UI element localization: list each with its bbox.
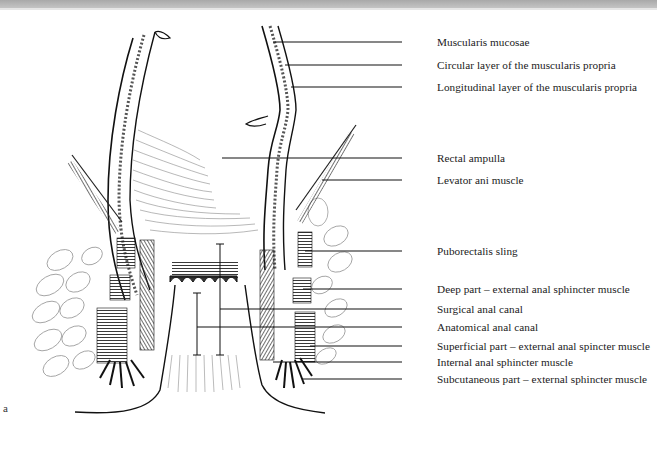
label-superficial-external-sphincter: Superficial part – external anal spincte… <box>437 340 650 352</box>
label-rectal-ampulla: Rectal ampulla <box>437 152 505 164</box>
levator-ani <box>70 125 356 232</box>
anal-verge-folds <box>168 355 240 392</box>
ischioanal-fat-left <box>29 244 106 381</box>
label-puborectalis-sling: Puborectalis sling <box>437 245 518 257</box>
panel-letter: a <box>3 402 8 414</box>
rectal-wall-right <box>246 26 296 270</box>
label-circular-layer: Circular layer of the muscularis propria <box>437 59 616 71</box>
label-internal-anal-sphincter: Internal anal sphincter muscle <box>437 356 573 368</box>
label-surgical-anal-canal: Surgical anal canal <box>437 303 523 315</box>
label-longitudinal-layer: Longitudinal layer of the muscularis pro… <box>437 81 637 93</box>
anal-columns <box>170 260 238 282</box>
label-anatomical-anal-canal: Anatomical anal canal <box>437 321 538 333</box>
external-sphincter-left <box>97 238 154 363</box>
label-levator-ani: Levator ani muscle <box>437 174 524 186</box>
label-subcutaneous-external-sphincter: Subcutaneous part – external sphincter m… <box>437 373 647 385</box>
label-muscularis-mucosae: Muscularis mucosae <box>437 36 530 48</box>
label-deep-external-sphincter: Deep part – external anal sphincter musc… <box>437 283 630 295</box>
rectal-ampulla-folds <box>133 130 258 234</box>
